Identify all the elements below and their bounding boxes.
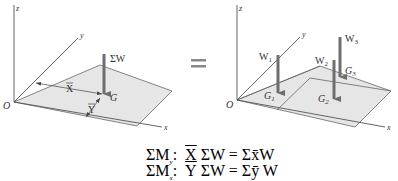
- equation-mx: ΣMx: Y ΣW = Σȳ W: [146, 162, 278, 181]
- z-label: z: [15, 4, 20, 13]
- y-label-2: y: [301, 30, 306, 39]
- equals-sign: [191, 59, 206, 68]
- z-label-2: z: [238, 4, 243, 13]
- right-figure: z y x O W1 W2 W3 G1 G2 G3: [226, 4, 391, 132]
- eq-bar-var: X: [185, 146, 197, 163]
- x-label-2: x: [386, 123, 391, 132]
- ybar-label: Y: [88, 104, 95, 115]
- eq-colon: :: [173, 146, 177, 163]
- sum-w-label: ΣW: [110, 53, 126, 64]
- left-figure: z y x O ΣW G X Y: [3, 4, 172, 132]
- eq-rest: ΣW = Σȳ W: [201, 162, 278, 179]
- g-label: G: [110, 92, 117, 103]
- eq-lhs: ΣM: [146, 146, 170, 163]
- y-label: y: [79, 31, 84, 40]
- xbar-label: X: [66, 83, 74, 94]
- x-label: x: [163, 123, 168, 132]
- plate-composite: [237, 66, 391, 127]
- w1-label: W1: [259, 51, 272, 64]
- w3-label: W3: [345, 33, 358, 46]
- origin-label-2: O: [226, 99, 233, 110]
- eq-bar-var: Y: [185, 162, 197, 179]
- eq-rest: ΣW = Σx̄W: [201, 146, 275, 163]
- plate: [14, 65, 172, 126]
- w2-label: W2: [315, 55, 328, 68]
- eq-lhs: ΣM: [146, 162, 170, 179]
- eq-colon: :: [173, 162, 177, 179]
- origin-label: O: [3, 100, 10, 111]
